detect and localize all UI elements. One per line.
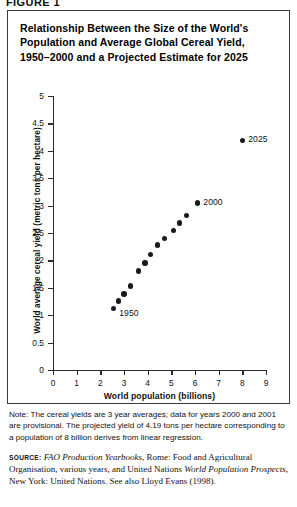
chart-panel: Relationship Between the Size of the Wor… [7,10,290,404]
y-axis-tick [48,206,53,207]
y-axis-tick-label: 1 [18,310,44,320]
data-point-label: 1950 [119,308,138,318]
y-axis-tick-label: 0.5 [18,338,44,348]
x-axis-tick-label: 8 [232,378,252,388]
y-axis-tick-label: 2 [18,255,44,265]
y-axis-tick-label: 1.5 [18,283,44,293]
y-axis-tick [48,123,53,124]
data-point [184,213,189,218]
x-axis-tick-label: 6 [185,378,205,388]
data-point [121,291,126,296]
source-kicker: source: [9,454,42,461]
x-axis-tick-label: 3 [114,378,134,388]
x-axis-tick [171,370,172,375]
y-axis-tick [48,178,53,179]
data-point [177,220,182,225]
y-axis-tick [48,343,53,344]
y-axis-tick [48,233,53,234]
x-axis-tick-label: 0 [43,378,63,388]
data-point [128,283,133,288]
y-axis-tick [48,96,53,97]
data-point [171,228,176,233]
data-point [162,236,167,241]
y-axis-tick-label: 4.5 [18,118,44,128]
y-axis-tick [48,260,53,261]
x-axis-tick [195,370,196,375]
y-axis-tick [48,151,53,152]
x-axis-tick [100,370,101,375]
x-axis-tick-label: 9 [256,378,276,388]
y-axis-tick [48,315,53,316]
source-title-1: FAO Production Yearbooks [44,452,142,462]
x-axis-tick [53,370,54,375]
data-point [116,298,121,303]
x-axis-tick [242,370,243,375]
y-axis-tick [48,288,53,289]
data-point [111,306,116,311]
x-axis-tick-label: 4 [138,378,158,388]
x-axis-line [53,370,266,371]
y-axis-line [53,96,54,371]
y-axis-tick-label: 4 [18,146,44,156]
data-point-label: 2000 [203,197,222,207]
x-axis-tick [266,370,267,375]
x-axis-tick-label: 1 [67,378,87,388]
y-axis-tick-label: 3 [18,201,44,211]
x-axis-tick [148,370,149,375]
chart-note: Note: The cereal yields are 3 year avera… [9,409,288,443]
chart-source: source: FAO Production Yearbooks, Rome: … [9,452,288,487]
data-point-label: 2025 [248,134,267,144]
y-axis-tick-label: 0 [18,365,44,375]
data-point [155,242,160,247]
x-axis-tick [124,370,125,375]
data-point [240,138,245,143]
source-title-2: World Population Prospects [184,464,285,474]
figure-container: FIGURE 1 Relationship Between the Size o… [0,0,297,507]
y-axis-tick-label: 3.5 [18,173,44,183]
x-axis-tick-label: 5 [161,378,181,388]
x-axis-tick-label: 2 [90,378,110,388]
x-axis-tick [219,370,220,375]
y-axis-tick-label: 2.5 [18,228,44,238]
data-point [148,252,153,257]
x-axis-tick [77,370,78,375]
data-point [195,200,200,205]
data-point [142,260,147,265]
figure-label: FIGURE 1 [6,0,60,8]
data-point [136,268,141,273]
y-axis-tick-label: 5 [18,91,44,101]
x-axis-tick-label: 7 [209,378,229,388]
x-axis-label: World population (billions) [53,391,266,401]
scatter-plot: World average cereal yield (metric tons … [8,11,291,405]
